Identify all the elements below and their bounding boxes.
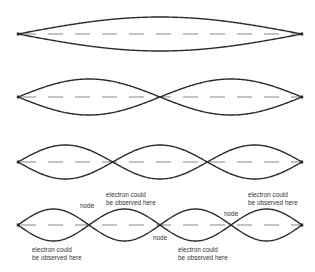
standing-wave-n1: [17, 17, 303, 51]
waves-group: [17, 17, 303, 241]
wave-upper-envelope: [18, 17, 302, 34]
label-node-1: node: [80, 202, 94, 210]
fixed-end-left: [17, 161, 19, 164]
fixed-end-right: [301, 161, 303, 164]
standing-wave-n3: [17, 145, 303, 179]
label-node-2: node: [153, 234, 167, 242]
label-electron-top-2: electron could be observed here: [248, 191, 298, 207]
label-node-3: node: [224, 210, 238, 218]
fixed-end-right: [301, 224, 303, 227]
standing-wave-n2: [17, 79, 303, 115]
wave-lower-envelope: [18, 34, 302, 51]
fixed-end-left: [17, 96, 19, 99]
fixed-end-left: [17, 224, 19, 227]
fixed-end-right: [301, 33, 303, 36]
fixed-end-right: [301, 96, 303, 99]
label-electron-bottom-2: electron could be observed here: [178, 246, 228, 262]
fixed-end-left: [17, 33, 19, 36]
label-electron-top-1: electron could be observed here: [106, 191, 156, 207]
label-electron-bottom-1: electron could be observed here: [32, 246, 82, 262]
standing-waves-diagram: [0, 0, 315, 272]
